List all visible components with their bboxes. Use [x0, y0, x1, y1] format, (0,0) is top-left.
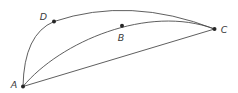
point-label-B: B	[118, 32, 125, 43]
figure-background	[0, 0, 238, 93]
point-dot-C	[213, 27, 217, 31]
point-dot-B	[120, 24, 124, 28]
point-dot-D	[52, 20, 56, 24]
point-label-D: D	[40, 11, 47, 22]
diagram-svg: ADBC	[0, 0, 238, 93]
point-label-C: C	[221, 24, 228, 35]
point-label-A: A	[10, 79, 18, 90]
point-dot-A	[21, 85, 25, 89]
figure-canvas: ADBC	[0, 0, 238, 93]
